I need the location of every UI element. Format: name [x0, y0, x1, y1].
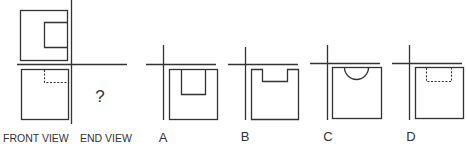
option-d-outline [416, 68, 464, 119]
option-d-label: D [406, 129, 415, 144]
option-b[interactable]: B [228, 47, 299, 144]
option-b-label: B [241, 129, 250, 144]
end-view-question-mark: ? [95, 87, 104, 106]
front-view [22, 70, 69, 120]
option-c-semicircle-notch [345, 68, 369, 80]
front-view-hidden-line [45, 70, 69, 83]
given-views: ? FRONT VIEW END VIEW [3, 0, 132, 144]
projection-diagram: ? FRONT VIEW END VIEW A B C D [0, 0, 467, 156]
option-a-label: A [159, 130, 168, 145]
option-c-outline [333, 68, 382, 119]
front-view-label: FRONT VIEW [3, 132, 69, 144]
option-c-label: C [323, 129, 332, 144]
option-d-hidden-rect [427, 68, 452, 82]
top-view-notch [45, 23, 68, 48]
top-view [21, 11, 68, 61]
option-a[interactable]: A [146, 45, 218, 145]
option-a-notch [182, 70, 206, 95]
option-c[interactable]: C [310, 45, 382, 144]
front-view-outline [22, 70, 69, 120]
option-b-outline [252, 70, 299, 120]
option-d[interactable]: D [392, 45, 464, 144]
end-view-label: END VIEW [80, 132, 132, 144]
